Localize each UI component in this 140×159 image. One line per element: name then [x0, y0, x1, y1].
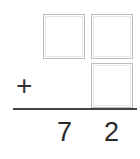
- sum-line: [13, 108, 137, 110]
- plus-operator: +: [16, 71, 32, 101]
- sum-ones-digit: 2: [104, 118, 119, 146]
- answer-box-top-tens[interactable]: [43, 14, 85, 59]
- answer-box-top-ones[interactable]: [91, 14, 133, 59]
- sum-tens-digit: 7: [57, 118, 72, 146]
- answer-box-bottom-ones[interactable]: [91, 63, 133, 108]
